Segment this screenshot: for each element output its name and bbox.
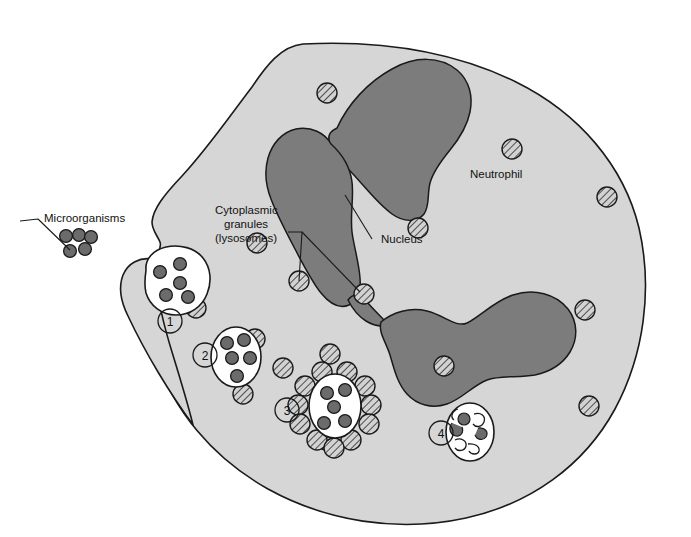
microorganism <box>174 277 187 290</box>
label-cytoplasmic-granules-line3: (lysosomes) <box>215 232 277 244</box>
stage-4-number: 4 <box>438 427 445 441</box>
microorganism <box>321 387 334 400</box>
cytoplasmic-granule <box>359 414 379 434</box>
cytoplasmic-granule <box>579 396 599 416</box>
cytoplasmic-granule <box>354 284 374 304</box>
label-nucleus: Nucleus <box>381 233 423 245</box>
cytoplasmic-granule <box>273 358 293 378</box>
microorganism <box>182 291 195 304</box>
free-microorganism <box>79 243 92 256</box>
microorganism <box>154 266 167 279</box>
microorganism <box>238 334 251 347</box>
free-microorganism <box>60 230 73 243</box>
microorganism <box>244 352 257 365</box>
microorganism <box>160 289 173 302</box>
stage-3-number: 3 <box>284 404 291 418</box>
microorganism <box>231 370 244 383</box>
free-microorganism <box>64 245 77 258</box>
microorganism <box>339 415 352 428</box>
cytoplasmic-granule <box>575 300 595 320</box>
free-microorganisms-group <box>60 229 98 258</box>
cytoplasmic-granule <box>290 414 310 434</box>
microorganism <box>328 401 341 414</box>
phagocytosis-figure: 1 2 3 <box>0 0 691 537</box>
cytoplasmic-granule <box>434 356 454 376</box>
label-cytoplasmic-granules-line1: Cytoplasmic <box>215 204 278 216</box>
microorganism <box>339 384 352 397</box>
microorganism <box>318 417 331 430</box>
label-neutrophil: Neutrophil <box>470 168 522 180</box>
free-microorganism <box>85 231 98 244</box>
neutrophil-diagram-canvas: 1 2 3 <box>0 0 691 537</box>
cytoplasmic-granule <box>320 344 340 364</box>
cytoplasmic-granule <box>502 139 522 159</box>
cytoplasmic-granule <box>361 395 381 415</box>
cytoplasmic-granule <box>324 438 344 458</box>
cytoplasmic-granule <box>317 83 337 103</box>
free-microorganism <box>73 229 86 242</box>
label-microorganisms: Microorganisms <box>44 212 125 224</box>
stage-1-number: 1 <box>167 315 174 329</box>
label-cytoplasmic-granules-line2: granules <box>224 218 268 230</box>
cytoplasmic-granule <box>597 187 617 207</box>
microorganism <box>174 258 187 271</box>
microorganism <box>221 337 234 350</box>
stage-2-number: 2 <box>202 349 209 363</box>
microorganism-residual <box>458 413 470 425</box>
microorganism <box>226 352 239 365</box>
